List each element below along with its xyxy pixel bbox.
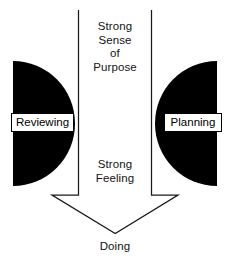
strong-sense-of-purpose-text: Strong Sense of Purpose <box>80 20 150 74</box>
planning-label: Planning <box>164 113 222 132</box>
strong-feeling-text: Strong Feeling <box>80 158 150 185</box>
doing-text: Doing <box>80 240 150 254</box>
learning-cycle-diagram: Strong Sense of Purpose Strong Feeling D… <box>0 0 231 264</box>
reviewing-label: Reviewing <box>11 113 74 132</box>
